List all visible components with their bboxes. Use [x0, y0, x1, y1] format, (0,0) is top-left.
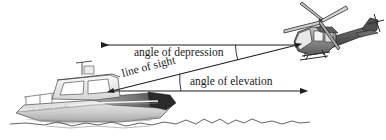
- helicopter-window-front: [314, 31, 323, 41]
- water-line-secondary: [46, 126, 150, 128]
- helicopter-graphic: [284, 2, 384, 60]
- boat-window-right: [88, 79, 110, 94]
- depression-angle-arc: [236, 45, 238, 60]
- angle-of-elevation-label: angle of elevation: [190, 76, 272, 88]
- angle-of-depression-label: angle of depression: [134, 47, 223, 59]
- elevation-angle-arc: [180, 74, 181, 91]
- diagram-canvas: U.S. COAST GUARD: [0, 0, 386, 140]
- helicopter-rotor-blade-2: [321, 6, 348, 22]
- helicopter-rotor-blade-1: [300, 2, 323, 20]
- boat-window-left: [60, 81, 84, 95]
- trigonometry-diagram: U.S. COAST GUARD: [0, 0, 386, 140]
- boat-mast-box: [84, 66, 94, 74]
